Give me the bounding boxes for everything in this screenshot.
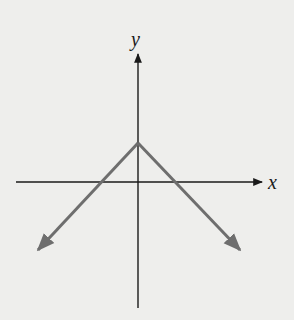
- right-arm-line: [138, 143, 240, 250]
- x-axis-label: x: [267, 171, 277, 193]
- graph: x y: [0, 0, 294, 320]
- y-axis-label: y: [129, 28, 140, 51]
- left-arm-line: [38, 143, 138, 250]
